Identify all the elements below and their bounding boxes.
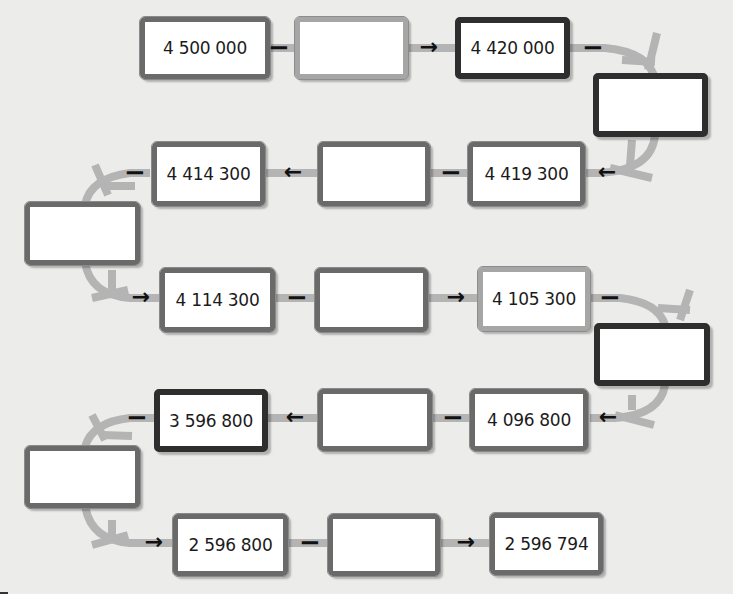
answer-input-box[interactable]	[318, 389, 432, 451]
arrow-right-icon: →	[443, 286, 469, 308]
minus-operator: −	[597, 284, 623, 310]
number-box: 3 596 800	[154, 389, 268, 452]
minus-operator: −	[580, 34, 606, 60]
box-value: 4 419 300	[485, 164, 569, 184]
answer-input-box[interactable]	[25, 446, 140, 508]
minus-operator: −	[266, 34, 292, 60]
minus-operator: −	[438, 159, 464, 185]
box-value: 4 414 300	[167, 164, 251, 184]
box-value: 4 500 000	[163, 38, 247, 58]
box-value: 4 420 000	[471, 38, 555, 58]
answer-input-box[interactable]	[25, 202, 140, 265]
number-box-end: 2 596 794	[490, 513, 603, 575]
minus-operator: −	[297, 529, 323, 555]
answer-input-box[interactable]	[594, 323, 710, 386]
minus-operator: −	[124, 404, 150, 430]
arrow-left-icon: ←	[594, 161, 620, 183]
box-value: 3 596 800	[169, 411, 253, 431]
answer-input-box[interactable]	[295, 17, 408, 79]
arrow-right-icon: →	[416, 36, 442, 58]
answer-input-box[interactable]	[318, 142, 430, 206]
minus-operator: −	[122, 159, 148, 185]
number-box: 4 114 300	[160, 268, 275, 332]
minus-operator: −	[440, 404, 466, 430]
number-box-start: 4 500 000	[140, 17, 270, 79]
answer-input-box[interactable]	[328, 514, 440, 576]
minus-operator: −	[284, 284, 310, 310]
corner-mark	[0, 592, 8, 594]
number-box: 4 419 300	[468, 142, 585, 206]
box-value: 4 114 300	[176, 290, 260, 310]
box-value: 2 596 800	[189, 535, 273, 555]
box-value: 2 596 794	[505, 534, 589, 554]
arrow-right-icon: →	[141, 531, 167, 553]
arrow-left-icon: ←	[280, 161, 306, 183]
arrow-right-icon: →	[453, 531, 479, 553]
arrow-left-icon: ←	[282, 406, 308, 428]
answer-input-box[interactable]	[593, 73, 708, 137]
arrow-right-icon: →	[128, 286, 154, 308]
number-box: 4 096 800	[470, 389, 588, 451]
box-value: 4 105 300	[492, 289, 576, 309]
number-box: 4 414 300	[152, 142, 265, 206]
arrow-left-icon: ←	[595, 406, 621, 428]
number-box: 4 420 000	[455, 17, 570, 79]
number-box: 2 596 800	[173, 514, 288, 576]
box-value: 4 096 800	[487, 410, 571, 430]
answer-input-box[interactable]	[315, 268, 428, 332]
subtraction-chain-diagram: 4 500 000 − → 4 420 000 − ← 4 419 300 − …	[0, 0, 733, 597]
number-box: 4 105 300	[478, 267, 590, 331]
